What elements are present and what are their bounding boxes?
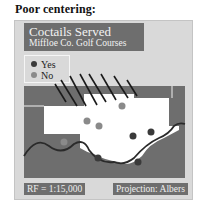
map-subtitle: Miffloe Co. Golf Courses — [29, 38, 126, 48]
figure-heading: Poor centering: — [15, 2, 96, 17]
legend-item-no: No — [31, 70, 53, 80]
legend-item-yes: Yes — [31, 59, 56, 69]
map-graphic — [24, 86, 185, 178]
light-dot-icon — [31, 72, 37, 78]
map-title-box: Coctails Served Miffloe Co. Golf Courses — [24, 23, 144, 51]
scale-label: RF = 1:15,000 — [24, 183, 85, 195]
map-legend: Yes No — [24, 55, 70, 83]
legend-label-yes: Yes — [41, 59, 56, 70]
map-body — [24, 86, 185, 178]
legend-label-no: No — [41, 70, 53, 81]
projection-label: Projection: Albers — [113, 183, 188, 195]
dark-dot-icon — [31, 61, 37, 67]
